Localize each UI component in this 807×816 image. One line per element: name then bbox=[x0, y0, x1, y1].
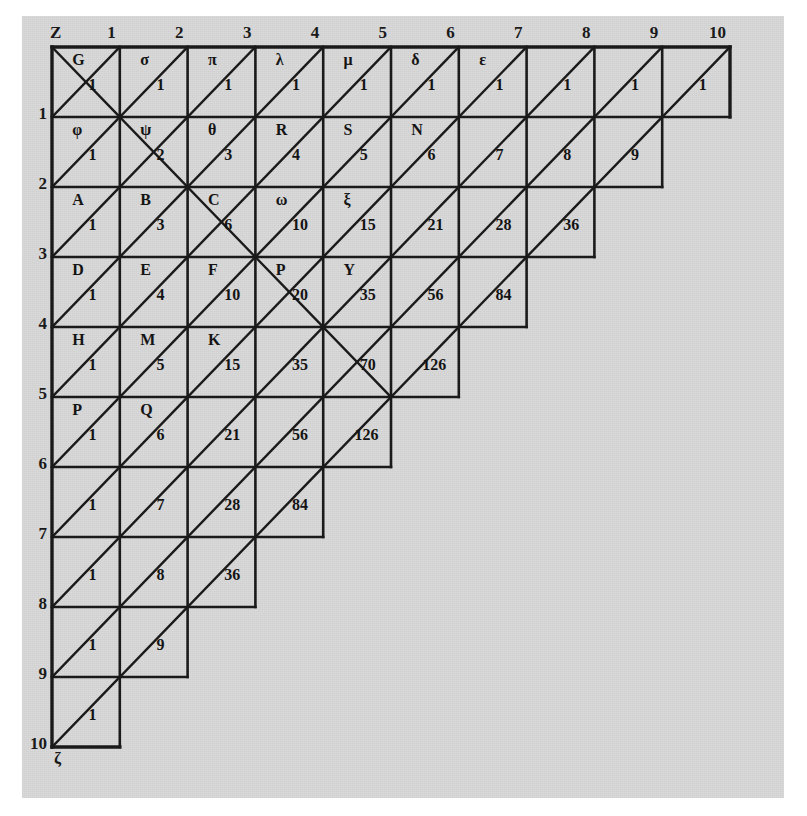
row-header-1: 1 bbox=[20, 104, 47, 124]
cell-value: 70 bbox=[360, 356, 376, 374]
column-header-3: 3 bbox=[221, 23, 251, 43]
cell-value: 35 bbox=[360, 286, 376, 304]
cell-diagonal bbox=[323, 47, 391, 117]
column-header-1: 1 bbox=[86, 23, 116, 43]
triangle-grid-lines bbox=[22, 16, 784, 798]
cell-diagonal bbox=[188, 537, 256, 607]
cell-value: 1 bbox=[89, 426, 97, 444]
cell-letter: ξ bbox=[344, 191, 351, 209]
cell-letter: Y bbox=[344, 261, 356, 279]
cell-diagonal bbox=[527, 187, 595, 257]
cell-diagonal bbox=[391, 47, 459, 117]
column-header-9: 9 bbox=[628, 23, 658, 43]
row-header-4: 4 bbox=[20, 314, 47, 334]
cell-value: 5 bbox=[156, 356, 164, 374]
cell-value: 1 bbox=[89, 76, 97, 94]
cell-letter: S bbox=[344, 121, 353, 139]
row-header-5: 5 bbox=[20, 384, 47, 404]
cell-diagonal bbox=[255, 47, 323, 117]
cell-diagonal bbox=[188, 47, 256, 117]
cell-value: 1 bbox=[360, 76, 368, 94]
cell-diagonal bbox=[391, 117, 459, 187]
row-header-9: 9 bbox=[20, 664, 47, 684]
cell-diagonal bbox=[52, 537, 120, 607]
cell-letter: λ bbox=[276, 51, 284, 69]
row-header-6: 6 bbox=[20, 454, 47, 474]
cell-diagonal bbox=[255, 467, 323, 537]
cell-value: 1 bbox=[563, 76, 571, 94]
corner-label-z: Z bbox=[50, 23, 61, 43]
column-header-8: 8 bbox=[560, 23, 590, 43]
column-header-4: 4 bbox=[289, 23, 319, 43]
cell-letter: ω bbox=[276, 191, 288, 209]
cell-diagonal bbox=[120, 397, 188, 467]
column-header-5: 5 bbox=[357, 23, 387, 43]
cell-diagonal bbox=[662, 47, 730, 117]
cell-letter: E bbox=[140, 261, 151, 279]
cell-value: 1 bbox=[292, 76, 300, 94]
cell-value: 36 bbox=[224, 566, 240, 584]
cell-diagonal bbox=[120, 607, 188, 677]
cell-diagonal bbox=[594, 47, 662, 117]
cell-diagonal bbox=[120, 187, 188, 257]
cell-letter: δ bbox=[411, 51, 419, 69]
cell-value: 84 bbox=[292, 496, 308, 514]
cell-diagonal bbox=[459, 47, 527, 117]
cell-diagonal bbox=[52, 467, 120, 537]
cell-diagonal bbox=[52, 677, 120, 747]
cell-value: 3 bbox=[224, 146, 232, 164]
cell-letter: P bbox=[276, 261, 286, 279]
cell-diagonal bbox=[52, 397, 120, 467]
cell-letter: R bbox=[276, 121, 288, 139]
arithmetic-triangle: G1σ1π1λ1μ1δ1ε1111φ1ψ2θ3R4S5N6789A1B3C6ω1… bbox=[22, 16, 784, 798]
cell-value: 5 bbox=[360, 146, 368, 164]
cell-letter: ψ bbox=[140, 121, 151, 139]
cell-value: 36 bbox=[563, 216, 579, 234]
cell-letter: π bbox=[208, 51, 217, 69]
cell-value: 4 bbox=[156, 286, 164, 304]
cell-letter: P bbox=[72, 401, 82, 419]
cell-value: 15 bbox=[224, 356, 240, 374]
cell-value: 9 bbox=[631, 146, 639, 164]
cell-diagonal bbox=[52, 257, 120, 327]
cell-value: 6 bbox=[224, 216, 232, 234]
cell-value: 21 bbox=[428, 216, 444, 234]
cell-value: 56 bbox=[428, 286, 444, 304]
cell-value: 10 bbox=[292, 216, 308, 234]
cell-diagonal bbox=[255, 397, 323, 467]
cell-value: 126 bbox=[354, 426, 378, 444]
cell-diagonal bbox=[188, 257, 256, 327]
cell-value: 1 bbox=[89, 286, 97, 304]
cell-letter: φ bbox=[72, 121, 82, 139]
cell-letter: A bbox=[72, 191, 84, 209]
cell-diagonal bbox=[459, 117, 527, 187]
cell-value: 20 bbox=[292, 286, 308, 304]
cell-value: 6 bbox=[428, 146, 436, 164]
cell-diagonal bbox=[120, 257, 188, 327]
column-header-2: 2 bbox=[154, 23, 184, 43]
cell-value: 1 bbox=[224, 76, 232, 94]
cell-value: 15 bbox=[360, 216, 376, 234]
cell-diagonal bbox=[52, 327, 120, 397]
cell-value: 1 bbox=[156, 76, 164, 94]
cell-value: 28 bbox=[224, 496, 240, 514]
cell-letter: μ bbox=[344, 51, 353, 69]
cell-value: 1 bbox=[89, 706, 97, 724]
cell-value: 7 bbox=[495, 146, 503, 164]
cell-value: 35 bbox=[292, 356, 308, 374]
row-header-2: 2 bbox=[20, 174, 47, 194]
column-header-10: 10 bbox=[696, 23, 726, 43]
cell-letter: N bbox=[411, 121, 423, 139]
cell-letter: D bbox=[72, 261, 84, 279]
corner-label-zeta: ζ bbox=[54, 749, 61, 769]
cell-diagonal bbox=[188, 397, 256, 467]
cell-diagonal bbox=[52, 187, 120, 257]
cell-letter: F bbox=[208, 261, 218, 279]
cell-letter: M bbox=[140, 331, 155, 349]
cell-value: 8 bbox=[563, 146, 571, 164]
cell-diagonal bbox=[323, 117, 391, 187]
cell-value: 126 bbox=[422, 356, 446, 374]
cell-diagonal bbox=[188, 467, 256, 537]
row-header-10: 10 bbox=[20, 734, 47, 754]
cell-diagonal bbox=[255, 187, 323, 257]
